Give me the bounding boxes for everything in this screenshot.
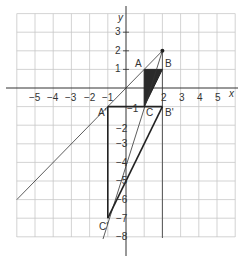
svg-text:−3: −3: [116, 138, 128, 149]
coordinate-diagram: x y −5 −4 −3 −2 −1 2 3 4 5 3 2 1 −2 −3 −…: [0, 0, 250, 264]
svg-text:2: 2: [115, 45, 121, 56]
label-c: C: [146, 107, 153, 118]
svg-text:−2: −2: [84, 92, 96, 103]
svg-text:−8: −8: [116, 231, 128, 242]
label-c-prime: C': [99, 221, 108, 232]
svg-text:−4: −4: [47, 92, 59, 103]
y-axis-label: y: [117, 12, 124, 23]
svg-text:1: 1: [115, 63, 121, 74]
svg-text:−1: −1: [127, 103, 139, 114]
svg-text:−2: −2: [116, 123, 128, 134]
svg-text:−6: −6: [116, 194, 128, 205]
label-a-prime: A': [98, 107, 107, 118]
svg-text:3: 3: [179, 92, 185, 103]
svg-text:2: 2: [161, 92, 167, 103]
svg-text:−4: −4: [116, 157, 128, 168]
label-b-prime: B': [165, 107, 174, 118]
svg-text:−1: −1: [102, 92, 114, 103]
svg-text:4: 4: [197, 92, 203, 103]
center-of-enlargement: [160, 49, 164, 53]
x-axis-label: x: [228, 88, 235, 99]
svg-text:−7: −7: [116, 213, 128, 224]
label-a: A: [135, 58, 142, 69]
label-b: B: [165, 58, 172, 69]
svg-text:−5: −5: [29, 92, 41, 103]
svg-text:5: 5: [215, 92, 221, 103]
x-tick-labels: −5 −4 −3 −2 −1 2 3 4 5: [29, 92, 221, 103]
svg-text:−3: −3: [65, 92, 77, 103]
svg-text:−5: −5: [116, 175, 128, 186]
svg-text:3: 3: [115, 26, 121, 37]
